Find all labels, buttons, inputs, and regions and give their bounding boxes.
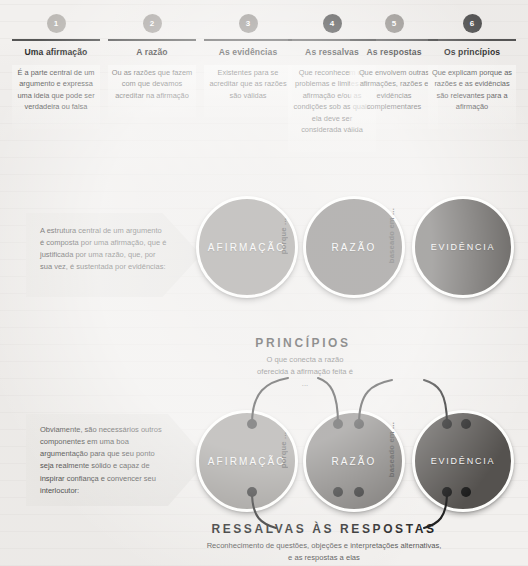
bottom-connector-porque: porque ... <box>279 432 288 468</box>
bottom-callout-text: Obviamente, são necessários outros compo… <box>26 414 208 507</box>
column-body: Que envolvem outras afirmações, razões e… <box>350 65 438 129</box>
column-body: Que explicam porque as razões e as evidê… <box>428 65 516 129</box>
column-body: Existentes para se acreditar que as razõ… <box>204 65 292 117</box>
infographic-page: 1 Uma afirmação É a parte central de um … <box>0 0 528 566</box>
top-circle-evidencia-label: EVIDÊNCIA <box>415 242 511 252</box>
definition-column-2: 2 A razão Ou as razões que fazem com que… <box>108 0 196 117</box>
top-callout-box: A estrutura central de um argumento é co… <box>26 213 201 297</box>
principios-subtitle: O que conecta a razão oferecida à afirma… <box>253 354 357 389</box>
column-title: Os princípios <box>428 47 516 57</box>
principios-title: PRINCÍPIOS <box>238 336 368 350</box>
bottom-callout-box: Obviamente, são necessários outros compo… <box>26 414 208 506</box>
definition-column-3: 3 As evidências Existentes para se acred… <box>204 0 292 117</box>
bottom-connector-baseado: baseado em ... <box>387 422 396 477</box>
step-badge-1: 1 <box>47 14 66 33</box>
top-connector-porque: porque ... <box>279 218 288 254</box>
ressalvas-subtitle: Reconhecimento de questões, objeções e i… <box>206 540 442 564</box>
definition-column-1: 1 Uma afirmação É a parte central de um … <box>12 0 100 129</box>
column-rule <box>350 39 438 41</box>
top-callout-text: A estrutura central de um argumento é co… <box>26 213 201 286</box>
column-rule <box>108 39 196 41</box>
definition-column-6: 6 Os princípios Que explicam porque as r… <box>428 0 516 129</box>
step-badge-4: 4 <box>323 14 342 33</box>
step-badge-2: 2 <box>143 14 162 33</box>
bottom-circle-evidencia: EVIDÊNCIA <box>412 410 514 512</box>
column-rule <box>204 39 292 41</box>
top-connector-baseado: baseado em ... <box>387 208 396 263</box>
column-title: Uma afirmação <box>12 47 100 57</box>
step-badge-5: 5 <box>385 14 404 33</box>
column-body: Ou as razões que fazem com que devamos a… <box>108 65 196 117</box>
column-title: As respostas <box>350 47 438 57</box>
column-title: As evidências <box>204 47 292 57</box>
definition-column-5: 5 As respostas Que envolvem outras afirm… <box>350 0 438 129</box>
column-body: É a parte central de um argumento e expr… <box>12 65 100 129</box>
top-circle-evidencia: EVIDÊNCIA <box>412 196 514 298</box>
column-title: A razão <box>108 47 196 57</box>
ressalvas-title: RESSALVAS ÀS RESPOSTAS <box>204 522 444 536</box>
step-badge-6: 6 <box>463 14 482 33</box>
bottom-circle-evidencia-label: EVIDÊNCIA <box>415 456 511 466</box>
definition-columns: 1 Uma afirmação É a parte central de um … <box>0 0 528 170</box>
column-rule <box>12 39 100 41</box>
step-badge-3: 3 <box>239 14 258 33</box>
column-rule <box>428 39 516 41</box>
